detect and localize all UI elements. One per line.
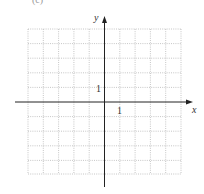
y-axis-arrow-icon — [102, 16, 107, 23]
axes — [15, 16, 193, 187]
coordinate-grid-figure: (c) — [0, 0, 204, 194]
y-tick-label: 1 — [96, 84, 101, 94]
y-axis-label: y — [94, 13, 98, 23]
x-tick-label: 1 — [117, 106, 122, 116]
x-axis-label: x — [192, 105, 196, 115]
grid-svg — [0, 0, 204, 194]
